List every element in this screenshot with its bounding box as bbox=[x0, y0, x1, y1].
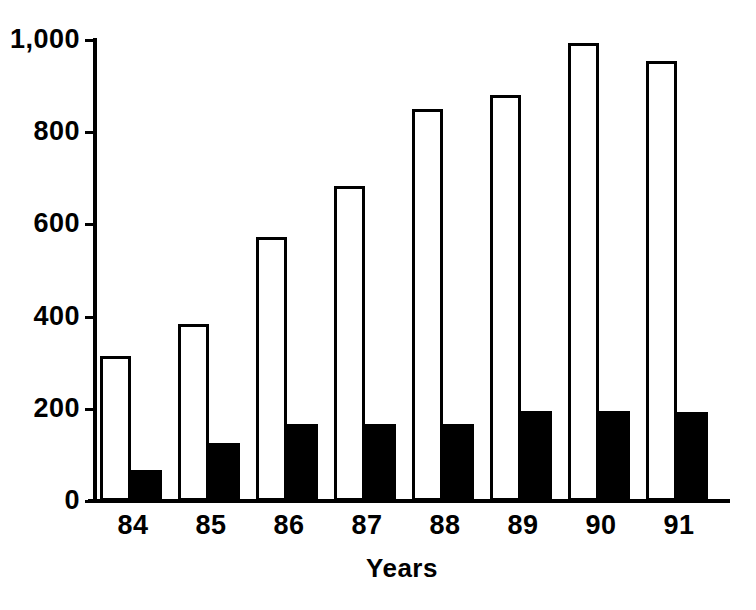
x-tick-label-86: 86 bbox=[249, 512, 329, 539]
bar-90-filled-bars bbox=[599, 411, 630, 501]
bar-91-open-bars bbox=[646, 61, 677, 501]
bar-chart: 02004006008001,000 8485868788899091 Year… bbox=[0, 0, 756, 610]
x-tick-label-91: 91 bbox=[639, 512, 719, 539]
x-axis-title-text: Years bbox=[366, 553, 438, 584]
bar-88-filled-bars bbox=[443, 424, 474, 501]
x-tick-label-88: 88 bbox=[405, 512, 485, 539]
bar-85-open-bars bbox=[178, 324, 209, 501]
bar-89-open-bars bbox=[490, 95, 521, 501]
bar-86-filled-bars bbox=[287, 424, 318, 501]
bar-84-filled-bars bbox=[131, 470, 162, 501]
bar-88-open-bars bbox=[412, 109, 443, 501]
x-tick-label-90: 90 bbox=[561, 512, 641, 539]
bars-layer bbox=[0, 0, 756, 501]
x-tick-label-85: 85 bbox=[171, 512, 251, 539]
bar-91-filled-bars bbox=[677, 412, 708, 501]
bar-87-filled-bars bbox=[365, 424, 396, 501]
x-tick-label-89: 89 bbox=[483, 512, 563, 539]
bar-90-open-bars bbox=[568, 43, 599, 501]
bar-84-open-bars bbox=[100, 356, 131, 501]
x-tick-label-84: 84 bbox=[93, 512, 173, 539]
x-tick-label-87: 87 bbox=[327, 512, 407, 539]
bar-89-filled-bars bbox=[521, 411, 552, 501]
bar-87-open-bars bbox=[334, 186, 365, 501]
x-axis-title: Years bbox=[0, 553, 756, 584]
bar-86-open-bars bbox=[256, 237, 287, 501]
bar-85-filled-bars bbox=[209, 443, 240, 501]
